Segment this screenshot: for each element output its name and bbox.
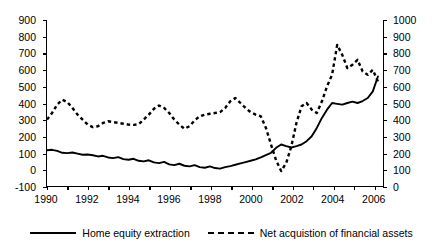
y-axis-right-tick [383,154,387,155]
y-axis-right-tick-label: 1000 [393,15,416,25]
legend-item-net-acquistion-financial-assets: Net acquistion of financial assets [208,227,413,239]
y-axis-left-tick [43,70,47,71]
y-axis-right-tick [383,187,387,188]
x-axis-tick [190,186,191,190]
x-axis-tick [108,186,109,190]
x-axis-tick [354,186,355,190]
y-axis-left-tick [43,154,47,155]
x-axis-tick-label: 1998 [188,194,232,204]
x-axis-tick [211,186,212,190]
y-axis-left-tick [43,20,47,21]
series-line-home-equity-extraction [47,76,378,168]
y-axis-left-tick-label: 800 [0,32,36,42]
y-axis-right-tick-label: 800 [393,48,411,58]
y-axis-right-tick-label: 400 [393,115,411,125]
x-axis-tick-label: 2002 [270,194,314,204]
y-axis-left-tick-label: 200 [0,132,36,142]
legend-label: Net acquistion of financial assets [260,227,413,239]
y-axis-right-tick-label: 100 [393,165,411,175]
y-axis-left-tick-label: 100 [0,149,36,159]
chart-container: Home equity extraction Net acquistion of… [0,0,443,247]
y-axis-right-tick-label: 900 [393,32,411,42]
x-axis-tick [149,186,150,190]
legend-label: Home equity extraction [82,227,189,239]
y-axis-right-tick [383,70,387,71]
y-axis-left-tick-label: 600 [0,65,36,75]
y-axis-left-tick-label: 300 [0,115,36,125]
x-axis-tick [88,186,89,190]
y-axis-right-tick [383,87,387,88]
y-axis-left-tick [43,53,47,54]
x-axis-tick [170,186,171,190]
x-axis-tick-label: 2000 [229,194,273,204]
y-axis-right-tick-label: 600 [393,82,411,92]
y-axis-right-tick-label: 300 [393,132,411,142]
x-axis-tick [334,186,335,190]
x-axis-tick [252,186,253,190]
y-axis-right-tick-label: 0 [393,182,399,192]
y-axis-right-tick [383,37,387,38]
y-axis-right-tick [383,53,387,54]
y-axis-right-tick [383,20,387,21]
x-axis-tick [313,186,314,190]
y-axis-left-tick [43,120,47,121]
y-axis-left-tick [43,87,47,88]
x-axis-tick [129,186,130,190]
y-axis-right-tick [383,137,387,138]
y-axis-left-tick-label: 400 [0,99,36,109]
y-axis-left-tick [43,37,47,38]
y-axis-right-tick [383,120,387,121]
x-axis-tick [47,186,48,190]
y-axis-left-tick-label: -100 [0,182,36,192]
x-axis-tick-label: 2006 [352,194,396,204]
y-axis-right-tick-label: 200 [393,149,411,159]
y-axis-left-tick-label: 700 [0,48,36,58]
y-axis-right-tick-label: 500 [393,99,411,109]
x-axis-tick-label: 1994 [106,194,150,204]
dashed-line-icon [208,232,254,234]
x-axis-tick-label: 1990 [24,194,68,204]
x-axis-tick [293,186,294,190]
x-axis-tick-label: 1996 [147,194,191,204]
legend-item-home-equity-extraction: Home equity extraction [30,227,189,239]
y-axis-left-tick [43,137,47,138]
x-axis-tick [231,186,232,190]
x-axis-tick [272,186,273,190]
plot-area [46,20,384,187]
chart-legend: Home equity extraction Net acquistion of… [0,218,443,247]
x-axis-tick [375,186,376,190]
series-layer [47,20,383,186]
y-axis-right-tick-label: 700 [393,65,411,75]
y-axis-right-tick [383,104,387,105]
x-axis-tick-label: 1992 [65,194,109,204]
y-axis-left-tick-label: 500 [0,82,36,92]
solid-line-icon [30,232,76,234]
x-axis-tick-label: 2004 [311,194,355,204]
y-axis-left-tick [43,170,47,171]
y-axis-left-tick [43,104,47,105]
y-axis-right-tick [383,170,387,171]
x-axis-tick [67,186,68,190]
y-axis-left-tick-label: 900 [0,15,36,25]
y-axis-left-tick-label: 0 [0,165,36,175]
